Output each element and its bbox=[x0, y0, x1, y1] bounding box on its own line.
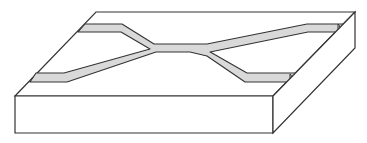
diagram-svg bbox=[0, 0, 367, 143]
waveguide-diagram bbox=[0, 0, 367, 143]
slab-front-face bbox=[15, 96, 273, 133]
